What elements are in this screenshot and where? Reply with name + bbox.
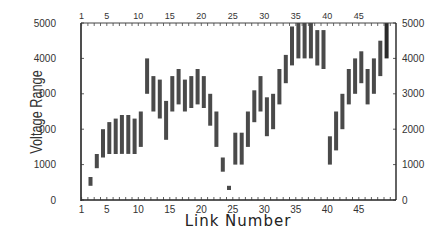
range-bar-link-35 bbox=[296, 23, 300, 58]
range-bar-link-3 bbox=[95, 154, 99, 168]
range-bar-link-2 bbox=[89, 177, 93, 186]
y2-tick-label: 2000 bbox=[402, 124, 425, 135]
range-bar-link-7 bbox=[120, 115, 124, 154]
top-x-tick-label: 25 bbox=[228, 11, 238, 21]
y-tick-label: 5000 bbox=[34, 18, 57, 29]
range-bar-link-27 bbox=[246, 112, 250, 147]
range-bar-link-18 bbox=[189, 76, 193, 108]
range-bar-link-48 bbox=[378, 41, 382, 76]
range-bar-link-25 bbox=[233, 133, 237, 165]
top-x-tick-label: 30 bbox=[259, 11, 269, 21]
y2-tick-label: 3000 bbox=[402, 88, 425, 99]
range-bar-link-30 bbox=[265, 97, 269, 136]
range-bar-link-9 bbox=[133, 119, 137, 154]
range-bar-link-31 bbox=[271, 94, 275, 129]
range-bar-link-45 bbox=[359, 51, 363, 83]
y2-tick-label: 1000 bbox=[402, 159, 425, 170]
range-bar-link-41 bbox=[334, 112, 338, 151]
range-bar-link-32 bbox=[277, 69, 281, 104]
range-bar-link-49 bbox=[385, 23, 389, 58]
y2-tick-label: 5000 bbox=[402, 18, 425, 29]
range-bar-link-11 bbox=[145, 58, 149, 93]
range-bar-link-37 bbox=[309, 23, 313, 58]
y2-tick-label: 0 bbox=[402, 195, 408, 206]
range-bar-link-4 bbox=[101, 129, 105, 157]
x-tick-label: 40 bbox=[322, 204, 334, 215]
range-bar-link-21 bbox=[208, 94, 212, 126]
range-bar-link-29 bbox=[259, 76, 263, 111]
y-tick-label: 0 bbox=[50, 195, 56, 206]
x-tick-label: 15 bbox=[164, 204, 176, 215]
range-bar-link-16 bbox=[177, 69, 181, 104]
range-bar-link-36 bbox=[303, 23, 307, 58]
range-bar-link-23 bbox=[221, 158, 225, 172]
top-x-tick-label: 10 bbox=[133, 11, 143, 21]
range-bar-link-34 bbox=[290, 27, 294, 66]
range-bar-link-5 bbox=[107, 122, 111, 154]
range-bar-link-40 bbox=[328, 136, 332, 164]
y-axis-title: Voltage Range bbox=[26, 70, 45, 154]
range-bar-link-42 bbox=[340, 94, 344, 129]
range-bar-link-20 bbox=[202, 76, 206, 108]
range-bar-link-6 bbox=[114, 119, 118, 154]
range-bar-link-10 bbox=[139, 112, 143, 147]
range-bar-link-26 bbox=[240, 133, 244, 165]
top-x-tick-label: 20 bbox=[196, 11, 206, 21]
x-axis-title: Link Number bbox=[185, 212, 292, 230]
range-bar-link-43 bbox=[347, 69, 351, 104]
top-x-tick-label: 35 bbox=[291, 11, 301, 21]
x-tick-label: 5 bbox=[104, 204, 110, 215]
top-x-tick-label: 5 bbox=[104, 11, 109, 21]
range-bar-link-47 bbox=[372, 58, 376, 93]
top-x-tick-label: 1 bbox=[79, 11, 84, 21]
x-tick-label: 1 bbox=[79, 204, 85, 215]
range-bar-link-14 bbox=[164, 101, 168, 140]
range-bar-link-39 bbox=[322, 30, 326, 69]
range-bar-link-38 bbox=[315, 30, 319, 65]
range-bar-link-12 bbox=[151, 76, 155, 111]
range-bar-link-24 bbox=[227, 186, 231, 190]
x-tick-label: 45 bbox=[353, 204, 365, 215]
x-tick-label: 10 bbox=[133, 204, 145, 215]
range-bar-link-17 bbox=[183, 80, 187, 112]
range-bar-link-19 bbox=[196, 69, 200, 104]
top-x-tick-label: 45 bbox=[354, 11, 364, 21]
range-bar-link-46 bbox=[366, 69, 370, 104]
range-bar-link-22 bbox=[214, 112, 218, 147]
range-bar-link-44 bbox=[353, 58, 357, 93]
x-tick-label: 35 bbox=[290, 204, 302, 215]
y2-tick-label: 4000 bbox=[402, 53, 425, 64]
bar-series bbox=[89, 23, 389, 190]
range-bar-link-33 bbox=[284, 55, 288, 83]
y-tick-label: 1000 bbox=[34, 159, 57, 170]
range-bar-link-13 bbox=[158, 80, 162, 119]
top-x-tick-label: 40 bbox=[322, 11, 332, 21]
y-tick-label: 4000 bbox=[34, 53, 57, 64]
range-bar-link-15 bbox=[170, 76, 174, 111]
voltage-range-chart: 1155101015152020252530303535404045450100… bbox=[0, 0, 443, 242]
top-x-tick-label: 15 bbox=[165, 11, 175, 21]
range-bar-link-28 bbox=[252, 90, 256, 122]
range-bar-link-8 bbox=[126, 115, 130, 154]
